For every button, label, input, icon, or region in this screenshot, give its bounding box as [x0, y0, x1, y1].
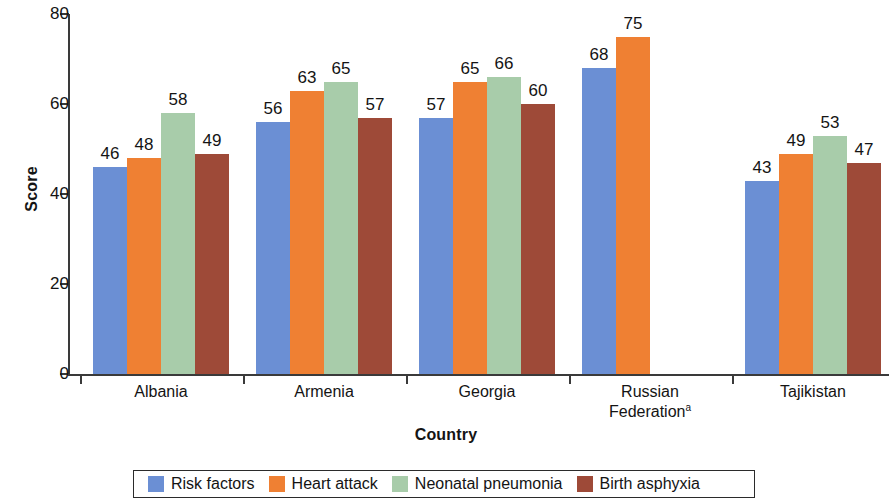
x-axis-title: Country: [0, 426, 892, 444]
bar-fill: [358, 118, 392, 375]
y-axis-tick-label: 40: [27, 184, 69, 204]
bar-fill: [521, 104, 555, 374]
bar: 65: [324, 82, 358, 375]
bar-fill: [93, 167, 127, 374]
legend-item[interactable]: Birth asphyxia: [577, 475, 701, 493]
bar-fill: [616, 37, 650, 375]
bar-value-label: 66: [495, 55, 514, 72]
bar-value-label: 57: [366, 96, 385, 113]
bar-fill: [256, 122, 290, 374]
bar-fill: [745, 181, 779, 375]
y-axis-tick-label: 0: [27, 364, 69, 384]
bar: 56: [256, 122, 290, 374]
x-axis-category-label: RussianFederationa: [570, 382, 730, 423]
bar-value-label: 49: [203, 132, 222, 149]
bar-fill: [813, 136, 847, 375]
y-axis-tick-label: 80: [27, 4, 69, 24]
bar-group: 56636557: [256, 14, 392, 374]
bar-fill: [324, 82, 358, 375]
y-axis-tick-label: 20: [27, 274, 69, 294]
bar-value-label: 46: [101, 145, 120, 162]
legend-label: Heart attack: [292, 475, 378, 493]
legend-item[interactable]: Risk factors: [148, 475, 255, 493]
bar: 66: [487, 77, 521, 374]
bar-fill: [453, 82, 487, 375]
bar-value-label: 60: [529, 82, 548, 99]
legend-item[interactable]: Neonatal pneumonia: [392, 475, 563, 493]
bar-value-label: 58: [169, 91, 188, 108]
x-axis-category-label: Georgia: [407, 382, 567, 402]
bar-value-label: 53: [821, 114, 840, 131]
bar: 47: [847, 163, 881, 375]
bar-fill: [290, 91, 324, 375]
bar-value-label: 68: [590, 46, 609, 63]
bar-group: 57656660: [419, 14, 555, 374]
bar: 49: [195, 154, 229, 375]
y-axis-tick-label: 60: [27, 94, 69, 114]
bar-value-label: 47: [855, 141, 874, 158]
bar-fill: [161, 113, 195, 374]
bar-fill: [847, 163, 881, 375]
x-axis-category-label: Armenia: [244, 382, 404, 402]
legend-label: Birth asphyxia: [600, 475, 701, 493]
plot-area: 464858495663655757656660687543495347: [68, 14, 889, 374]
legend-color-swatch: [577, 476, 593, 492]
bar-group: 6875: [582, 14, 718, 374]
bar-fill: [419, 118, 453, 375]
bar: 57: [419, 118, 453, 375]
bar: 43: [745, 181, 779, 375]
bar-fill: [127, 158, 161, 374]
bar: 75: [616, 37, 650, 375]
bar: 48: [127, 158, 161, 374]
bar-value-label: 56: [264, 100, 283, 117]
bar-fill: [779, 154, 813, 375]
bar: 63: [290, 91, 324, 375]
bar: 60: [521, 104, 555, 374]
legend-label: Risk factors: [171, 475, 255, 493]
bar-value-label: 65: [332, 60, 351, 77]
bar-group: 46485849: [93, 14, 229, 374]
bar-value-label: 57: [427, 96, 446, 113]
legend-color-swatch: [148, 476, 164, 492]
legend-label: Neonatal pneumonia: [415, 475, 563, 493]
x-axis-category-label: Tajikistan: [733, 382, 892, 402]
bar-value-label: 43: [753, 159, 772, 176]
bar: 49: [779, 154, 813, 375]
bar-group: 43495347: [745, 14, 881, 374]
bar: 65: [453, 82, 487, 375]
x-axis-line: [68, 374, 889, 376]
bar-value-label: 65: [461, 60, 480, 77]
bar-fill: [582, 68, 616, 374]
legend-color-swatch: [392, 476, 408, 492]
bar-value-label: 49: [787, 132, 806, 149]
bar-value-label: 48: [135, 136, 154, 153]
bar-chart: Score 020406080 464858495663655757656660…: [0, 0, 892, 503]
bar: 68: [582, 68, 616, 374]
bar-fill: [195, 154, 229, 375]
chart-legend: Risk factorsHeart attackNeonatal pneumon…: [133, 470, 755, 498]
bar: 46: [93, 167, 127, 374]
x-axis-category-label: Albania: [81, 382, 241, 402]
bar-value-label: 75: [624, 15, 643, 32]
bar: 53: [813, 136, 847, 375]
bar-fill: [487, 77, 521, 374]
legend-color-swatch: [269, 476, 285, 492]
bar-value-label: 63: [298, 69, 317, 86]
bar: 57: [358, 118, 392, 375]
bar: 58: [161, 113, 195, 374]
legend-item[interactable]: Heart attack: [269, 475, 378, 493]
